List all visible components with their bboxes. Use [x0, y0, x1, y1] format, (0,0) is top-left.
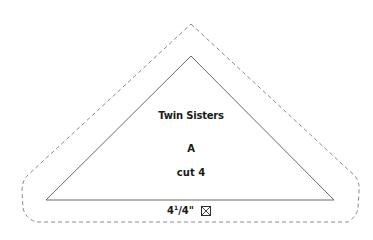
dimension-label: 41/4": [167, 204, 194, 216]
piece-letter: A: [176, 143, 206, 154]
seam-allowance-outline: [22, 24, 359, 222]
cut-instruction: cut 4: [166, 167, 216, 178]
dimension-whole: 4: [167, 205, 174, 216]
cutting-line-triangle: [46, 56, 334, 200]
dimension-denominator: 4": [182, 205, 194, 216]
boxed-x-icon: [201, 206, 211, 216]
piece-name: Twin Sisters: [141, 110, 241, 121]
